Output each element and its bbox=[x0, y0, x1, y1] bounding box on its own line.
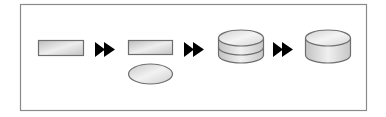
step-3-cylinder-split bbox=[219, 30, 264, 63]
step-4-cylinder bbox=[306, 30, 351, 63]
step-1-rectangle bbox=[39, 41, 84, 56]
process-flow-diagram bbox=[0, 0, 386, 117]
